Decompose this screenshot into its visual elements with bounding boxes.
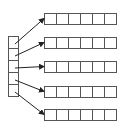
row-cell: [69, 14, 81, 25]
index-cell: [9, 85, 19, 97]
pointer-arrow: [15, 92, 44, 115]
pointer-array-diagram: [0, 0, 123, 129]
pointer-arrow: [15, 67, 44, 69]
row-cell: [57, 14, 69, 25]
row-cell: [81, 38, 93, 49]
row-cell: [69, 62, 81, 73]
row-cell: [93, 14, 105, 25]
row-cell: [45, 14, 57, 25]
row-cell: [93, 38, 105, 49]
pointer-arrow: [15, 43, 44, 57]
row-cell: [69, 87, 81, 98]
row-cell: [93, 87, 105, 98]
row-cell: [105, 62, 117, 73]
row-cell: [105, 87, 117, 98]
index-array: [9, 37, 19, 97]
index-cell: [9, 49, 19, 61]
index-cell: [9, 61, 19, 73]
row-cell: [45, 110, 57, 121]
row-cell: [93, 110, 105, 121]
row-array: [45, 87, 117, 98]
pointer-arrows: [15, 19, 44, 115]
row-cell: [57, 87, 69, 98]
pointer-arrow: [15, 80, 44, 92]
index-cell: [9, 73, 19, 85]
row-cell: [105, 38, 117, 49]
row-cell: [57, 110, 69, 121]
row-array: [45, 38, 117, 49]
row-array: [45, 62, 117, 73]
row-cell: [93, 62, 105, 73]
row-cell: [57, 38, 69, 49]
row-cell: [105, 14, 117, 25]
row-cell: [81, 14, 93, 25]
row-cell: [69, 38, 81, 49]
row-cell: [45, 62, 57, 73]
pointer-arrow: [15, 19, 44, 45]
row-cell: [45, 38, 57, 49]
row-arrays: [45, 14, 117, 121]
row-cell: [81, 62, 93, 73]
row-cell: [69, 110, 81, 121]
row-array: [45, 14, 117, 25]
row-array: [45, 110, 117, 121]
row-cell: [57, 62, 69, 73]
row-cell: [81, 110, 93, 121]
row-cell: [45, 87, 57, 98]
row-cell: [81, 87, 93, 98]
row-cell: [105, 110, 117, 121]
